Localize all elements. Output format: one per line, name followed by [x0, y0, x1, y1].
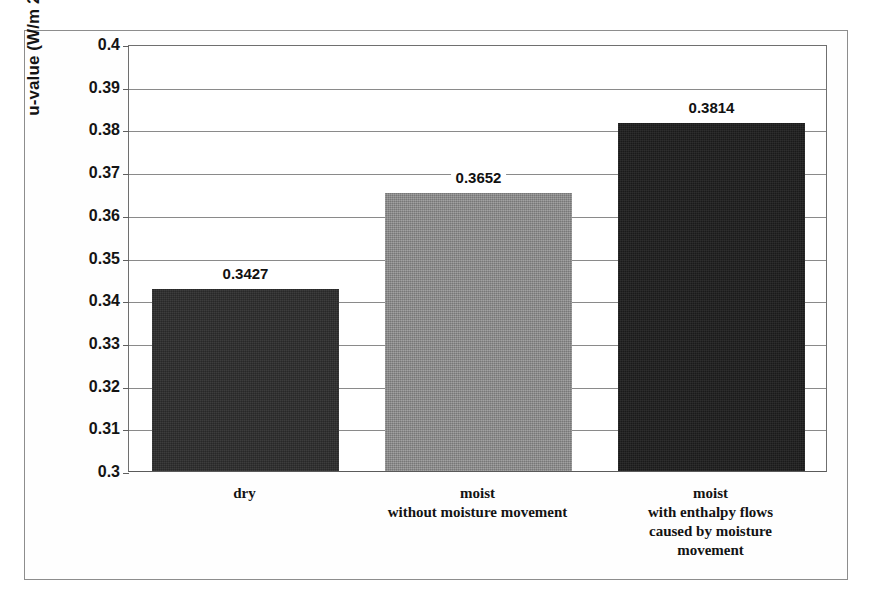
- category-label-line: caused by moisture: [648, 522, 773, 541]
- y-axis-tick: [123, 46, 129, 47]
- category-label-line: with enthalpy flows: [648, 503, 773, 522]
- y-axis-tick: [123, 388, 129, 389]
- bar[interactable]: [385, 193, 571, 471]
- x-axis-category-labels: drymoistwithout moisture movementmoistwi…: [128, 484, 827, 576]
- y-axis-title: u-value (W/m 2K): [16, 0, 52, 166]
- x-axis-category-label: dry: [233, 484, 256, 503]
- y-axis-tick: [123, 131, 129, 132]
- y-axis-tick: [123, 302, 129, 303]
- y-axis-tick-label: 0.33: [89, 335, 120, 353]
- y-axis-tick: [123, 174, 129, 175]
- gridline: [129, 89, 826, 90]
- bar[interactable]: [618, 123, 804, 471]
- y-axis-tick: [123, 89, 129, 90]
- y-axis-tick: [123, 345, 129, 346]
- plot-area: 0.34270.36520.3814: [128, 45, 827, 472]
- y-axis-tick-label: 0.34: [89, 292, 120, 310]
- bar[interactable]: [152, 289, 338, 471]
- bar-value-label: 0.3814: [684, 99, 740, 116]
- category-label-line: moist: [648, 484, 773, 503]
- category-label-line: moist: [388, 484, 568, 503]
- y-axis-tick-label: 0.35: [89, 250, 120, 268]
- y-axis-tick: [123, 430, 129, 431]
- y-axis-tick: [123, 217, 129, 218]
- y-axis-tick-label: 0.36: [89, 207, 120, 225]
- y-axis-tick-labels: 0.40.390.380.370.360.350.340.330.320.310…: [62, 45, 124, 472]
- y-axis-tick-label: 0.38: [89, 121, 120, 139]
- y-axis-tick: [123, 260, 129, 261]
- y-axis-tick-label: 0.31: [89, 420, 120, 438]
- y-axis-tick-label: 0.3: [98, 463, 120, 481]
- y-axis-tick-label: 0.37: [89, 164, 120, 182]
- category-label-line: without moisture movement: [388, 503, 568, 522]
- bar-value-label: 0.3652: [451, 169, 507, 186]
- y-axis-tick: [123, 473, 129, 474]
- x-axis-category-label: moistwith enthalpy flowscaused by moistu…: [648, 484, 773, 560]
- category-label-line: dry: [233, 484, 256, 503]
- y-axis-tick-label: 0.4: [98, 36, 120, 54]
- figure-canvas: u-value (W/m 2K) 0.40.390.380.370.360.35…: [0, 0, 870, 601]
- category-label-line: movement: [648, 541, 773, 560]
- y-axis-tick-label: 0.39: [89, 79, 120, 97]
- bar-value-label: 0.3427: [218, 265, 274, 282]
- x-axis-category-label: moistwithout moisture movement: [388, 484, 568, 522]
- y-axis-tick-label: 0.32: [89, 378, 120, 396]
